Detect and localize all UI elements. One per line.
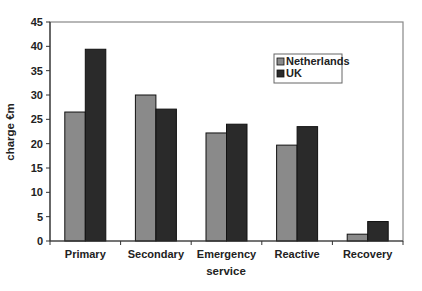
y-axis-title: charge €m xyxy=(4,103,16,161)
bar-netherlands-secondary xyxy=(135,95,156,241)
bar-uk-secondary xyxy=(156,109,177,241)
x-tick-label: Recovery xyxy=(343,248,393,260)
y-tick-label: 5 xyxy=(37,211,43,223)
y-tick-label: 15 xyxy=(31,162,43,174)
bar-uk-reactive xyxy=(297,127,318,241)
y-tick-label: 40 xyxy=(31,40,43,52)
bar-netherlands-emergency xyxy=(206,133,227,241)
y-tick-label: 30 xyxy=(31,89,43,101)
legend-swatch xyxy=(277,70,284,77)
bar-netherlands-primary xyxy=(65,112,86,241)
x-axis: PrimarySecondaryEmergencyReactiveRecover… xyxy=(50,241,403,260)
bar-chart: 051015202530354045 PrimarySecondaryEmerg… xyxy=(0,0,422,291)
y-tick-label: 45 xyxy=(31,16,43,28)
bar-uk-primary xyxy=(85,49,106,241)
y-axis: 051015202530354045 xyxy=(31,16,50,247)
x-axis-title: service xyxy=(206,265,246,277)
y-tick-label: 25 xyxy=(31,113,43,125)
x-tick-label: Secondary xyxy=(128,248,185,260)
y-tick-label: 10 xyxy=(31,186,43,198)
legend-label: UK xyxy=(286,67,302,79)
bar-uk-emergency xyxy=(227,124,248,241)
bar-netherlands-reactive xyxy=(277,145,298,241)
bar-netherlands-recovery xyxy=(347,234,368,241)
y-tick-label: 0 xyxy=(37,235,43,247)
x-tick-label: Primary xyxy=(65,248,107,260)
x-tick-label: Emergency xyxy=(197,248,257,260)
x-tick-label: Reactive xyxy=(274,248,319,260)
legend: NetherlandsUK xyxy=(274,54,350,83)
legend-swatch xyxy=(277,58,284,65)
y-tick-label: 35 xyxy=(31,65,43,77)
y-tick-label: 20 xyxy=(31,138,43,150)
legend-label: Netherlands xyxy=(286,55,350,67)
bar-uk-recovery xyxy=(368,222,389,241)
